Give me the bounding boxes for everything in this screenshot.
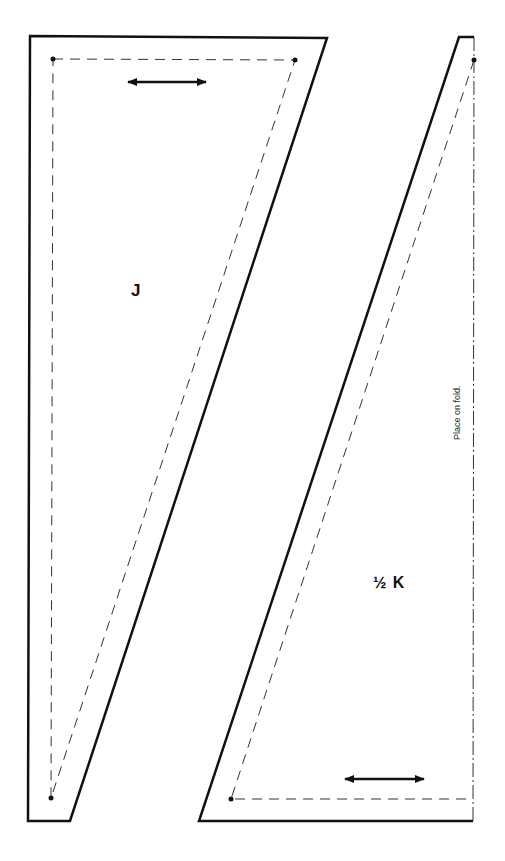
piece-j [28,36,327,821]
piece-k-corner-dot [229,797,234,802]
piece-j-seam-line [51,59,295,798]
pattern-sheet [0,0,505,861]
piece-j-label: J [131,281,140,301]
piece-k [199,37,477,821]
piece-j-corner-dot [293,58,298,63]
piece-j-corner-dot [51,57,56,62]
piece-j-corner-dot [49,796,54,801]
piece-k-fold-line [473,37,474,821]
piece-k-corner-dot [472,58,477,63]
place-on-fold-label: Place on fold. [452,385,462,440]
piece-k-seam-line [231,60,474,799]
piece-k-label: ½ K [373,574,405,592]
piece-j-cutting-line [28,36,327,821]
piece-k-cutting-line [199,37,474,821]
